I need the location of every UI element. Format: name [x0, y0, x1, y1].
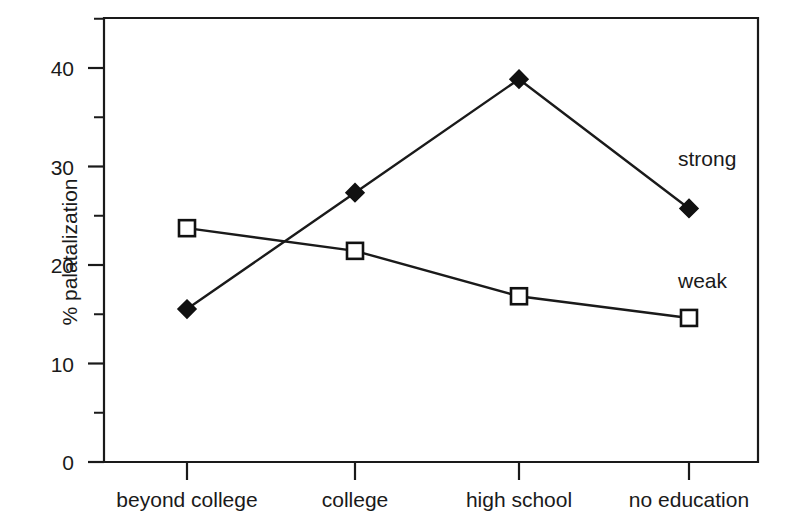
- axis-frame: [104, 18, 758, 462]
- y-axis-minor-ticks: [94, 19, 104, 413]
- data-point-strong-no education: [680, 199, 698, 217]
- y-axis-major-ticks: [88, 68, 104, 462]
- plot-area: [0, 0, 790, 524]
- series-label-strong: strong: [678, 148, 736, 169]
- y-tick-label-30: 30: [34, 156, 74, 177]
- data-point-strong-college: [346, 184, 364, 202]
- y-tick-label-40: 40: [34, 58, 74, 79]
- data-point-weak-high school: [511, 288, 527, 304]
- data-point-strong-high school: [510, 70, 528, 88]
- x-tick-label-high-school: high school: [466, 489, 572, 510]
- data-point-weak-college: [347, 243, 363, 259]
- chart-figure: % palatalization 0 10 20 30 40 beyond co…: [0, 0, 790, 524]
- data-point-strong-beyond college: [178, 300, 196, 318]
- y-tick-label-10: 10: [34, 353, 74, 374]
- x-tick-label-college: college: [322, 489, 389, 510]
- y-tick-label-0: 0: [34, 452, 74, 473]
- x-tick-label-beyond-college: beyond college: [116, 489, 257, 510]
- series-layer: [178, 70, 698, 326]
- data-point-weak-no education: [681, 310, 697, 326]
- x-tick-label-no-education: no education: [629, 489, 749, 510]
- data-point-weak-beyond college: [179, 220, 195, 236]
- x-axis-ticks: [187, 462, 689, 480]
- series-line-weak: [187, 228, 689, 318]
- series-label-weak: weak: [678, 270, 727, 291]
- y-tick-label-20: 20: [34, 255, 74, 276]
